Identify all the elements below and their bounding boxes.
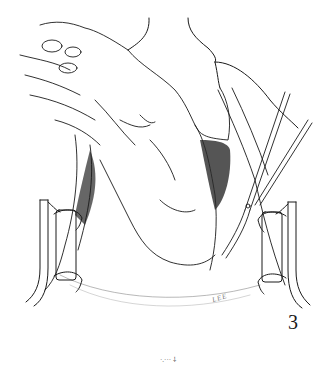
surgical-illustration <box>0 0 332 366</box>
cavity-shading <box>75 140 230 225</box>
footer-mark: ·.··· ⸸ <box>160 355 176 364</box>
figure-number: 3 <box>288 312 298 332</box>
body-outline <box>128 18 298 128</box>
right-retractor <box>258 202 310 308</box>
left-retractor <box>26 200 82 306</box>
tissue-mass <box>20 22 230 270</box>
scissors-icon <box>222 92 312 258</box>
